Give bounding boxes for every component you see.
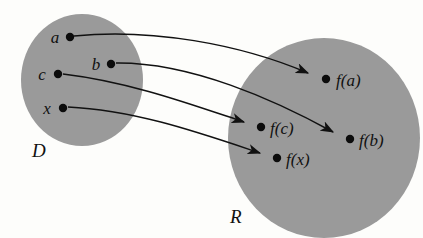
point-label-fx: f(x): [286, 150, 310, 169]
point-dot-fc: [257, 123, 265, 131]
point-dot-c: [54, 70, 62, 78]
point-label-fc: f(c): [270, 119, 294, 138]
point-dot-fx: [273, 154, 281, 162]
point-label-c: c: [38, 65, 46, 84]
point-dot-fb: [346, 135, 354, 143]
range-set-ellipse: [228, 38, 420, 238]
point-label-x: x: [42, 99, 51, 118]
point-label-fa: f(a): [336, 71, 361, 90]
domain-set-label: D: [31, 140, 46, 161]
point-dot-b: [107, 60, 115, 68]
range-set-label: R: [229, 206, 242, 227]
function-mapping-figure: a b c x f(a) f(c) f(b) f(x) D R: [0, 0, 423, 238]
point-label-a: a: [51, 28, 60, 47]
point-dot-a: [66, 33, 74, 41]
point-label-b: b: [92, 55, 101, 74]
point-label-fb: f(b): [359, 131, 384, 150]
point-dot-fa: [322, 75, 330, 83]
point-dot-x: [59, 104, 67, 112]
diagram-canvas: a b c x f(a) f(c) f(b) f(x) D R: [0, 0, 423, 238]
